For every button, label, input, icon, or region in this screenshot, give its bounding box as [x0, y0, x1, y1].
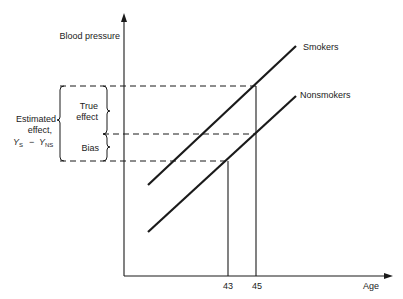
true-effect-label-line1: True [80, 101, 98, 111]
x-tick-43: 43 [223, 281, 233, 291]
nonsmokers-label: Nonsmokers [300, 90, 351, 100]
formula-ys-sub: S [19, 142, 23, 148]
bias-brace [103, 134, 110, 161]
x-axis-label: Age [363, 281, 379, 291]
smokers-label: Smokers [303, 42, 339, 52]
true-effect-brace [103, 86, 110, 134]
estimated-effect-formula: Y S − Y NS [13, 137, 53, 148]
x-tick-45: 45 [252, 281, 262, 291]
x-axis-arrow-icon [384, 273, 393, 279]
estimated-effect-brace [57, 86, 64, 161]
bias-label: Bias [81, 143, 99, 153]
y-axis-label: Blood pressure [59, 31, 120, 41]
formula-minus: − [29, 137, 34, 147]
estimated-effect-label-line2: effect, [28, 125, 52, 135]
diagram-canvas: Blood pressure Age 43 45 Smokers Nonsmok… [0, 0, 403, 299]
estimated-effect-label-line1: Estimated [16, 114, 56, 124]
y-axis-arrow-icon [121, 13, 127, 22]
true-effect-label-line2: effect [76, 112, 98, 122]
formula-yns-sub: NS [45, 142, 53, 148]
